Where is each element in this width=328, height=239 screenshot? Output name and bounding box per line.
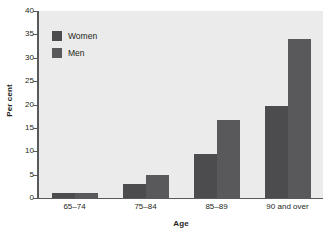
- legend-swatch-icon: [52, 31, 62, 41]
- y-axis-label-text: Per cent: [5, 84, 14, 116]
- y-axis-tick-mark: [33, 175, 37, 176]
- y-axis-tick-mark: [33, 151, 37, 152]
- legend-label: Women: [68, 32, 97, 41]
- y-axis-tick-mark: [33, 105, 37, 106]
- bar-chart-figure: Per cent 0510152025303540 WomenMen 65–74…: [0, 0, 328, 239]
- legend-item-women: Women: [52, 31, 142, 41]
- x-axis-tick-label: 65–74: [63, 202, 85, 212]
- y-axis-tick-mark: [33, 198, 37, 199]
- bar-group: [181, 11, 252, 198]
- x-axis-label: Age: [39, 219, 323, 228]
- bar-women-1: [123, 184, 146, 198]
- bar-men-3: [288, 39, 311, 198]
- y-axis-tick-mark: [33, 58, 37, 59]
- x-axis-tick-labels: 65–7475–8485–8990 and over: [39, 202, 323, 216]
- bar-women-0: [52, 193, 75, 198]
- bar-men-1: [146, 175, 169, 198]
- y-axis-label: Per cent: [2, 0, 16, 200]
- legend-item-men: Men: [52, 48, 142, 58]
- chart-legend: WomenMen: [52, 31, 142, 65]
- legend-swatch-icon: [52, 48, 62, 58]
- x-axis-tick-label: 85–89: [205, 202, 227, 212]
- y-axis-tick-mark: [33, 81, 37, 82]
- y-axis-tick-mark: [33, 34, 37, 35]
- bar-women-3: [265, 106, 288, 198]
- bar-group: [252, 11, 323, 198]
- bar-men-0: [75, 193, 98, 198]
- legend-label: Men: [68, 49, 85, 58]
- x-axis-tick-label: 75–84: [134, 202, 156, 212]
- x-axis-tick-label: 90 and over: [266, 202, 308, 212]
- y-axis-tick-labels: 0510152025303540: [16, 6, 34, 198]
- y-axis-tick-mark: [33, 128, 37, 129]
- y-axis-tick-mark: [33, 11, 37, 12]
- bar-men-2: [217, 120, 240, 198]
- bar-women-2: [194, 154, 217, 198]
